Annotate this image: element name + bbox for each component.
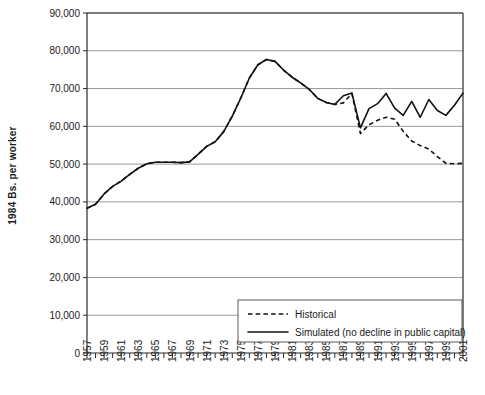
chart-legend: HistoricalSimulated (no decline in publi…	[238, 300, 466, 342]
x-tick-label: 1965	[150, 339, 161, 362]
x-tick-label: 1983	[304, 339, 315, 362]
x-tick-label: 1959	[99, 339, 110, 362]
x-tick-label: 1973	[219, 339, 230, 362]
series-line-historical	[87, 59, 463, 208]
x-tick-label: 1969	[185, 339, 196, 362]
y-tick-label: 50,000	[49, 159, 80, 170]
x-tick-label: 1981	[287, 339, 298, 362]
x-tick-label: 1995	[407, 339, 418, 362]
y-tick-label: 20,000	[49, 272, 80, 283]
y-tick-label: 30,000	[49, 234, 80, 245]
y-tick-label: 40,000	[49, 196, 80, 207]
x-tick-label: 1975	[236, 339, 247, 362]
x-tick-label: 1989	[355, 339, 366, 362]
legend-label: Historical	[295, 309, 336, 320]
y-tick-label: 0	[74, 348, 80, 359]
x-tick-label: 1987	[338, 339, 349, 362]
x-tick-label: 1971	[202, 339, 213, 362]
y-axis-tick-labels: 90,00080,00070,00060,00050,00040,00030,0…	[49, 8, 87, 359]
plot-series	[87, 59, 463, 208]
chart-container: 1984 Bs. per worker 90,00080,00070,00060…	[0, 0, 485, 395]
x-tick-label: 1999	[441, 339, 452, 362]
x-tick-label: 1997	[424, 339, 435, 362]
series-line-simulated	[87, 59, 463, 208]
x-tick-label: 1977	[253, 339, 264, 362]
y-tick-label: 60,000	[49, 121, 80, 132]
x-tick-label: 1967	[167, 339, 178, 362]
x-tick-label: 1991	[373, 339, 384, 362]
y-tick-label: 10,000	[49, 310, 80, 321]
chart-svg: 90,00080,00070,00060,00050,00040,00030,0…	[0, 0, 485, 395]
x-tick-label: 1993	[390, 339, 401, 362]
y-tick-label: 70,000	[49, 83, 80, 94]
x-tick-label: 1963	[133, 339, 144, 362]
x-tick-label: 1985	[321, 339, 332, 362]
y-tick-label: 80,000	[49, 45, 80, 56]
x-tick-label: 1979	[270, 339, 281, 362]
x-axis-tick-labels: 1957195919611963196519671969197119731975…	[82, 339, 469, 362]
legend-label: Simulated (no decline in public capital)	[295, 327, 466, 338]
y-tick-label: 90,000	[49, 8, 80, 19]
gridlines	[87, 13, 463, 315]
x-tick-label: 1961	[116, 339, 127, 362]
